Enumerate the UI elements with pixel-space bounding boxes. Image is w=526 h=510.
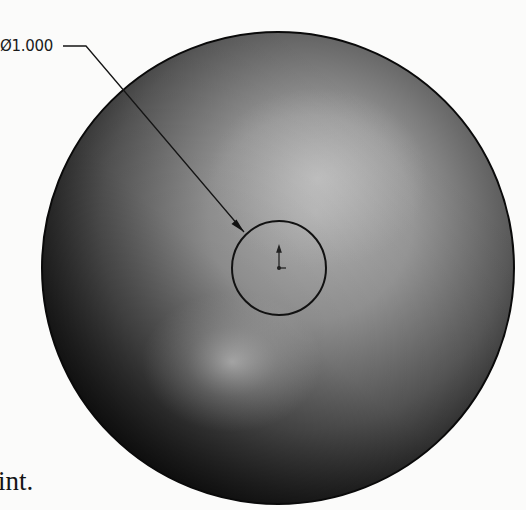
sphere-face[interactable] xyxy=(40,30,516,510)
body-text-fragment: int. xyxy=(0,466,33,496)
diameter-dimension-label[interactable]: Ø1.000 xyxy=(0,36,53,56)
sphere-drawing xyxy=(0,0,526,510)
cad-sketch-figure: Ø1.000 int. xyxy=(0,0,526,510)
